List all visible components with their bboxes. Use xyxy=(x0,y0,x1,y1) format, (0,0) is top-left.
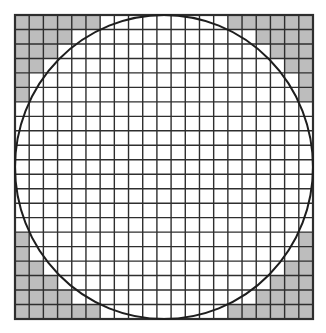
shaded-cell xyxy=(270,290,284,304)
shaded-cell xyxy=(299,305,313,319)
shaded-cell xyxy=(43,15,57,29)
shaded-cell xyxy=(43,29,57,43)
shaded-cell xyxy=(285,290,299,304)
shaded-cell xyxy=(299,15,313,29)
shaded-cell xyxy=(43,290,57,304)
shaded-cell xyxy=(15,44,29,58)
shaded-cell xyxy=(29,305,43,319)
shaded-cell xyxy=(270,44,284,58)
shaded-cell xyxy=(299,87,313,101)
shaded-cell xyxy=(256,29,270,43)
shaded-cell xyxy=(256,305,270,319)
shaded-cell xyxy=(15,58,29,72)
shaded-cell xyxy=(29,276,43,290)
shaded-cell xyxy=(58,290,72,304)
shaded-cell xyxy=(29,58,43,72)
shaded-cell xyxy=(285,15,299,29)
shaded-cell xyxy=(299,276,313,290)
shaded-cell xyxy=(15,290,29,304)
shaded-cell xyxy=(285,276,299,290)
shaded-cell xyxy=(242,15,256,29)
shaded-cell xyxy=(86,15,100,29)
shaded-cell xyxy=(15,261,29,275)
shaded-cell xyxy=(72,305,86,319)
shaded-cell xyxy=(15,232,29,246)
shaded-cell xyxy=(29,29,43,43)
shaded-cell xyxy=(15,15,29,29)
shaded-cell xyxy=(285,58,299,72)
shaded-cell xyxy=(228,305,242,319)
shaded-cell xyxy=(256,15,270,29)
shaded-cell xyxy=(242,305,256,319)
shaded-cell xyxy=(270,15,284,29)
shaded-cell xyxy=(299,73,313,87)
shaded-cell xyxy=(15,73,29,87)
shaded-cell xyxy=(15,247,29,261)
shaded-cell xyxy=(29,290,43,304)
shaded-cell xyxy=(29,261,43,275)
shaded-cell xyxy=(285,305,299,319)
shaded-cell xyxy=(58,15,72,29)
shaded-cell xyxy=(299,58,313,72)
shaded-cell xyxy=(285,44,299,58)
shaded-cell xyxy=(270,276,284,290)
shaded-cell xyxy=(270,305,284,319)
shaded-cell xyxy=(228,15,242,29)
shaded-cell xyxy=(29,44,43,58)
shaded-cell xyxy=(285,261,299,275)
shaded-cell xyxy=(15,305,29,319)
shaded-cell xyxy=(270,29,284,43)
shaded-cell xyxy=(58,305,72,319)
shaded-cell xyxy=(285,29,299,43)
shaded-cell xyxy=(86,305,100,319)
shaded-cell xyxy=(299,247,313,261)
shaded-cell xyxy=(15,29,29,43)
shaded-cell xyxy=(299,29,313,43)
shaded-cell xyxy=(72,15,86,29)
shaded-cell xyxy=(256,290,270,304)
shaded-cell xyxy=(15,276,29,290)
shaded-cell xyxy=(43,305,57,319)
shaded-cell xyxy=(299,290,313,304)
shaded-cell xyxy=(299,261,313,275)
shaded-cell xyxy=(43,44,57,58)
circle-in-grid-diagram xyxy=(0,0,326,333)
shaded-cell xyxy=(58,29,72,43)
shaded-cell xyxy=(299,44,313,58)
shaded-cell xyxy=(29,15,43,29)
shaded-cell xyxy=(15,87,29,101)
shaded-cell xyxy=(299,232,313,246)
shaded-cell xyxy=(43,276,57,290)
